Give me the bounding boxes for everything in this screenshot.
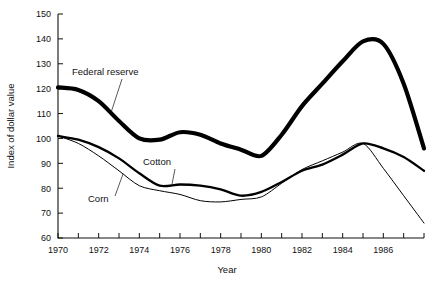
x-tick-label: 1980 <box>251 245 271 255</box>
x-axis-title: Year <box>217 264 236 275</box>
y-tick-label: 90 <box>41 159 51 169</box>
annotation-leader-line <box>172 169 175 185</box>
x-tick-label: 1976 <box>170 245 190 255</box>
y-tick-label: 140 <box>36 34 51 44</box>
series-label-federal-reserve: Federal reserve <box>72 66 139 77</box>
series-line-federal-reserve <box>58 39 424 156</box>
x-tick-label: 1982 <box>292 245 312 255</box>
chart-container: 60708090100110120130140150 1970197219741… <box>0 0 438 284</box>
y-tick-label: 120 <box>36 84 51 94</box>
y-tick-label: 80 <box>41 184 51 194</box>
y-axis-title: Index of dollar value <box>5 83 16 168</box>
axis-frame <box>58 14 424 238</box>
annotation-leader-line <box>115 174 123 196</box>
series-annotations: Federal reserveCottonCorn <box>72 66 175 204</box>
x-axis-ticks: 197019721974197619781980198219841986 <box>48 233 424 255</box>
y-tick-label: 70 <box>41 208 51 218</box>
x-tick-label: 1974 <box>129 245 149 255</box>
x-tick-label: 1984 <box>333 245 353 255</box>
y-tick-label: 100 <box>36 134 51 144</box>
series-label-corn: Corn <box>88 193 109 204</box>
y-tick-label: 150 <box>36 9 51 19</box>
y-tick-label: 110 <box>37 109 51 119</box>
annotation-leader-line <box>111 79 122 113</box>
y-tick-label: 60 <box>41 233 51 243</box>
x-tick-label: 1972 <box>89 245 109 255</box>
series-label-cotton: Cotton <box>143 156 171 167</box>
x-tick-label: 1986 <box>373 245 393 255</box>
line-chart: 60708090100110120130140150 1970197219741… <box>0 0 438 284</box>
y-axis-ticks: 60708090100110120130140150 <box>36 9 63 243</box>
x-tick-label: 1978 <box>211 245 231 255</box>
x-tick-label: 1970 <box>48 245 68 255</box>
y-tick-label: 130 <box>36 59 51 69</box>
